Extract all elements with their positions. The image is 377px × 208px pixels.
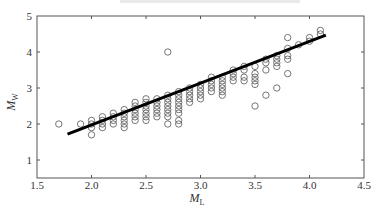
x-tick-label: 3.5 (248, 179, 262, 191)
x-tick-label: 1.5 (30, 179, 44, 191)
data-point (56, 121, 62, 127)
data-points (56, 27, 324, 138)
data-point (285, 70, 291, 76)
y-tick-label: 1 (27, 154, 33, 166)
data-point (274, 85, 280, 91)
y-axis-title: MW (4, 93, 20, 112)
data-point (88, 132, 94, 138)
y-tick-label: 4 (27, 46, 33, 58)
x-tick-label: 2.0 (85, 179, 99, 191)
x-tick-label: 3.0 (194, 179, 208, 191)
x-tick-label: 2.5 (139, 179, 153, 191)
y-tick-label: 3 (27, 82, 33, 94)
x-tick-label: 4.0 (303, 179, 317, 191)
x-axis-ticks: 1.52.02.53.03.54.04.5 (30, 16, 371, 191)
y-axis-ticks: 12345 (27, 10, 365, 166)
scatter-chart: 1.52.02.53.03.54.04.5 12345 ML MW (0, 0, 377, 208)
data-point (263, 67, 269, 73)
data-point (252, 103, 258, 109)
regression-line (68, 35, 326, 134)
y-tick-label: 5 (27, 10, 33, 22)
y-tick-label: 2 (27, 118, 33, 130)
x-axis-title: ML (189, 191, 205, 207)
data-point (263, 92, 269, 98)
data-point (77, 121, 83, 127)
data-point (285, 34, 291, 40)
data-point (165, 49, 171, 55)
data-point (165, 121, 171, 127)
x-tick-label: 4.5 (357, 179, 371, 191)
